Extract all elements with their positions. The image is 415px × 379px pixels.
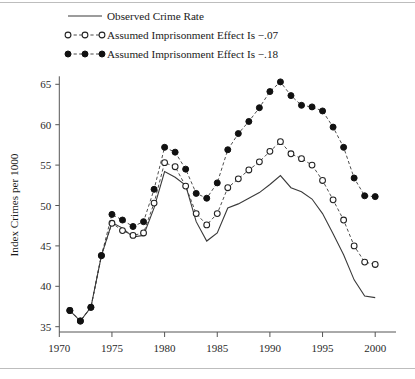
data-point xyxy=(277,79,283,85)
data-point xyxy=(141,219,147,225)
chart-series xyxy=(67,79,378,324)
legend-marker-sample xyxy=(82,51,88,57)
data-point xyxy=(225,185,231,191)
data-point xyxy=(372,194,378,200)
data-point xyxy=(119,217,125,223)
data-point xyxy=(299,156,305,162)
data-point xyxy=(267,89,273,95)
data-point xyxy=(193,211,199,217)
data-point xyxy=(341,144,347,150)
y-axis-tick-label: 60 xyxy=(40,119,52,131)
x-axis-tick-label: 1970 xyxy=(48,342,71,354)
data-point xyxy=(214,211,220,217)
x-axis-tick-label: 2000 xyxy=(364,342,387,354)
data-point xyxy=(98,253,104,259)
data-point xyxy=(67,308,73,314)
data-point xyxy=(246,167,252,173)
x-axis-tick-label: 1985 xyxy=(206,342,229,354)
data-point xyxy=(330,197,336,203)
data-point xyxy=(162,144,168,150)
data-point xyxy=(183,183,189,189)
chart-legend: Observed Crime RateAssumed Imprisonment … xyxy=(65,10,278,60)
y-axis-tick-label: 65 xyxy=(40,78,52,90)
data-point xyxy=(151,186,157,192)
data-point xyxy=(330,124,336,130)
data-point xyxy=(320,178,326,184)
legend-item-3: Assumed Imprisonment Effect Is −.18 xyxy=(65,48,278,60)
data-point xyxy=(351,243,357,249)
x-axis-tick-label: 1980 xyxy=(154,342,177,354)
data-point xyxy=(225,147,231,153)
legend-marker-sample xyxy=(65,32,71,38)
x-axis-tick-label: 1990 xyxy=(259,342,282,354)
legend-item-2: Assumed Imprisonment Effect Is −.07 xyxy=(65,29,278,41)
data-point xyxy=(120,228,126,234)
data-point xyxy=(372,262,378,268)
data-point xyxy=(162,160,168,166)
data-point xyxy=(256,159,262,165)
legend-item-1: Observed Crime Rate xyxy=(68,10,204,22)
data-point xyxy=(256,105,262,111)
legend-item-label: Observed Crime Rate xyxy=(107,10,204,22)
data-point xyxy=(278,139,284,145)
data-point xyxy=(214,180,220,186)
data-point xyxy=(141,230,147,236)
y-axis-tick-label: 45 xyxy=(40,240,52,252)
data-point xyxy=(109,211,115,217)
page-rule-top xyxy=(0,2,415,3)
data-point xyxy=(341,217,347,223)
data-point xyxy=(298,102,304,108)
page-rule-bottom xyxy=(0,368,415,369)
data-point xyxy=(235,176,241,182)
data-point xyxy=(309,104,315,110)
data-point xyxy=(288,93,294,99)
y-axis-tick-label: 35 xyxy=(40,321,52,333)
data-point xyxy=(362,193,368,199)
data-point xyxy=(288,151,294,157)
legend-marker-sample xyxy=(99,51,105,57)
y-axis-title: Index Crimes per 1000 xyxy=(8,153,20,256)
data-point xyxy=(309,162,315,168)
data-point xyxy=(183,166,189,172)
data-point xyxy=(77,318,83,324)
x-axis-tick-label: 1975 xyxy=(101,342,124,354)
legend-marker-sample xyxy=(82,32,88,38)
crime-rate-line-chart: Observed Crime RateAssumed Imprisonment … xyxy=(0,0,415,379)
data-point xyxy=(204,222,210,228)
series-line xyxy=(70,142,375,321)
data-point xyxy=(362,259,368,265)
x-axis-tick-label: 1995 xyxy=(312,342,335,354)
data-point xyxy=(235,131,241,137)
figure-container: Observed Crime RateAssumed Imprisonment … xyxy=(0,0,415,379)
y-axis-tick-label: 40 xyxy=(40,280,52,292)
y-axis-tick-label: 55 xyxy=(40,159,52,171)
data-point xyxy=(351,175,357,181)
legend-marker-sample xyxy=(99,32,105,38)
series-line xyxy=(70,82,375,321)
data-point xyxy=(267,148,273,154)
legend-marker-sample xyxy=(65,51,71,57)
data-point xyxy=(193,190,199,196)
data-point xyxy=(130,224,136,230)
data-point xyxy=(172,164,178,170)
data-point xyxy=(320,108,326,114)
data-point xyxy=(130,233,136,239)
legend-item-label: Assumed Imprisonment Effect Is −.07 xyxy=(107,29,278,41)
data-point xyxy=(204,195,210,201)
data-point xyxy=(172,149,178,155)
data-point xyxy=(151,200,157,206)
data-point xyxy=(246,118,252,124)
data-point xyxy=(88,304,94,310)
y-axis-tick-label: 50 xyxy=(40,200,52,212)
legend-item-label: Assumed Imprisonment Effect Is −.18 xyxy=(107,48,278,60)
